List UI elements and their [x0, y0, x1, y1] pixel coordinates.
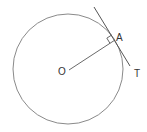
label-a: A — [116, 32, 123, 43]
label-t: T — [134, 68, 140, 79]
circle — [13, 14, 123, 124]
radius-line-oa — [69, 40, 115, 70]
tangent-line-at — [94, 7, 130, 66]
label-o: O — [58, 66, 66, 77]
tangent-diagram: O A T — [0, 0, 147, 132]
diagram-canvas: O A T — [0, 0, 147, 132]
